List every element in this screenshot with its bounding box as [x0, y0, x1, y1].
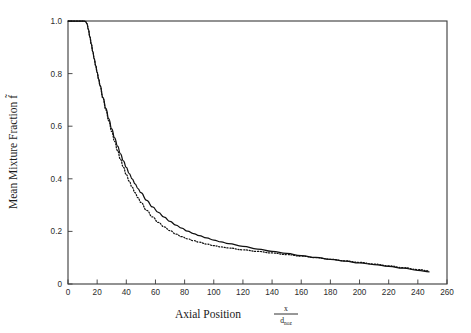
- y-tick-label: 0.6: [51, 122, 63, 131]
- y-tick-label: 0.8: [51, 70, 63, 79]
- x-tick-label: 100: [207, 288, 221, 297]
- x-tick-label: 180: [324, 288, 338, 297]
- x-tick-label: 80: [180, 288, 190, 297]
- x-tick-label: 40: [122, 288, 132, 297]
- x-tick-label: 220: [382, 288, 396, 297]
- x-axis-label: Axial Position: [175, 308, 241, 320]
- x-tick-label: 0: [66, 288, 71, 297]
- x-tick-label: 140: [265, 288, 279, 297]
- y-tick-label: 0.4: [51, 175, 63, 184]
- x-tick-label: 120: [236, 288, 250, 297]
- y-axis-label: Mean Mixture Fraction f̃: [5, 94, 19, 209]
- y-tick-label: 0: [57, 280, 62, 289]
- mixture-fraction-chart: 020406080100120140160180200220240260 00.…: [0, 0, 471, 333]
- x-tick-label: 200: [353, 288, 367, 297]
- y-tick-label: 0.2: [51, 227, 63, 236]
- x-tick-label: 60: [151, 288, 161, 297]
- y-tick-label: 1.0: [51, 17, 63, 26]
- chart-background: [0, 0, 471, 333]
- fraction-numerator: x: [284, 304, 288, 313]
- x-tick-label: 260: [440, 288, 454, 297]
- x-tick-label: 160: [294, 288, 308, 297]
- x-tick-label: 240: [411, 288, 425, 297]
- x-tick-label: 20: [93, 288, 103, 297]
